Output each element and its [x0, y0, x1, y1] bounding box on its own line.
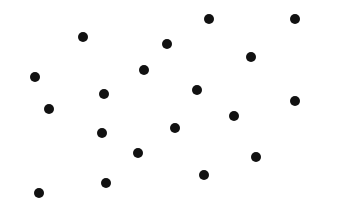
dot: [30, 72, 40, 82]
dot: [101, 178, 111, 188]
dot: [133, 148, 143, 158]
dot: [170, 123, 180, 133]
dot: [139, 65, 149, 75]
dot: [192, 85, 202, 95]
dot: [229, 111, 239, 121]
dot: [204, 14, 214, 24]
dot: [246, 52, 256, 62]
dot: [99, 89, 109, 99]
dot: [251, 152, 261, 162]
dot: [162, 39, 172, 49]
dot: [44, 104, 54, 114]
dot: [97, 128, 107, 138]
dot: [34, 188, 44, 198]
dot: [290, 96, 300, 106]
dot: [290, 14, 300, 24]
dot-field: [0, 0, 345, 215]
dot: [199, 170, 209, 180]
dot: [78, 32, 88, 42]
